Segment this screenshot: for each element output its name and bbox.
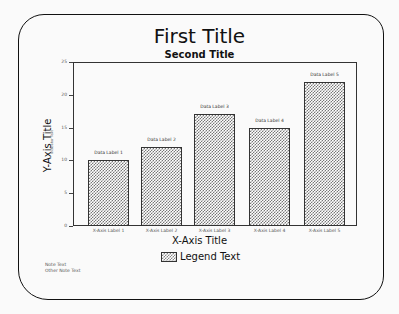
x-tick-label: X-Axis Label 1: [79, 228, 139, 233]
x-tick-label: X-Axis Label 3: [185, 228, 245, 233]
data-label: Data Label 5: [295, 72, 355, 77]
y-tick-label: 5: [53, 190, 67, 195]
other-note-text: Other Note Text: [45, 268, 80, 273]
data-label: Data Label 2: [132, 137, 192, 142]
bar-3: [194, 114, 235, 226]
y-tick-label: 15: [53, 125, 67, 130]
y-tick-label: 25: [53, 59, 67, 64]
x-tick-label: X-Axis Label 2: [132, 228, 192, 233]
note-text: Note Text: [45, 262, 66, 267]
y-tick-label: 0: [53, 223, 67, 228]
x-tick-label: X-Axis Label 5: [295, 228, 355, 233]
legend: Legend Text: [161, 251, 240, 262]
legend-swatch-icon: [161, 252, 177, 262]
bar-4: [249, 128, 290, 226]
chart-title: First Title: [0, 24, 399, 48]
bar-1: [88, 160, 129, 226]
x-axis-title: X-Axis Title: [0, 235, 399, 246]
y-axis-subtitle: Indicator Text: [50, 102, 54, 182]
data-label: Data Label 4: [240, 118, 300, 123]
y-tick-mark: [69, 226, 73, 227]
y-tick-label: 10: [53, 157, 67, 162]
bar-2: [141, 147, 182, 226]
x-tick-label: X-Axis Label 4: [240, 228, 300, 233]
data-label: Data Label 1: [79, 150, 139, 155]
legend-label: Legend Text: [180, 251, 240, 262]
data-label: Data Label 3: [185, 104, 245, 109]
y-tick-label: 20: [53, 92, 67, 97]
bar-5: [304, 82, 345, 226]
